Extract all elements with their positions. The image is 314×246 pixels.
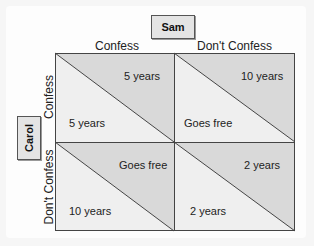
payoff-carol-cc: 5 years bbox=[69, 117, 105, 129]
payoff-sam-cd: 10 years bbox=[241, 70, 283, 82]
payoff-carol-dd: 2 years bbox=[190, 205, 226, 217]
payoff-carol-cd: Goes free bbox=[184, 117, 232, 129]
payoff-sam-dc: Goes free bbox=[119, 159, 167, 171]
payoff-sam-cc: 5 years bbox=[124, 70, 160, 82]
payoff-carol-dc: 10 years bbox=[69, 205, 111, 217]
payoff-sam-dd: 2 years bbox=[244, 159, 280, 171]
payoff-grid bbox=[0, 0, 314, 246]
